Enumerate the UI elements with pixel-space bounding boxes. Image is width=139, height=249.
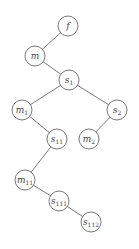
nodes-group: fms1m1s2s11m2m11s111s112 bbox=[12, 16, 127, 232]
tree-diagram: fms1m1s2s11m2m11s111s112 bbox=[0, 0, 139, 249]
node-s1: s1 bbox=[59, 70, 79, 90]
node-s2: s2 bbox=[107, 100, 127, 120]
node-m11: m11 bbox=[15, 170, 35, 190]
node-f: f bbox=[58, 16, 78, 36]
node-m: m bbox=[25, 46, 45, 66]
node-s111: s111 bbox=[49, 191, 69, 211]
node-m1: m1 bbox=[12, 100, 32, 120]
node-s112: s112 bbox=[81, 212, 101, 232]
node-s11: s11 bbox=[47, 129, 67, 149]
node-label: m bbox=[31, 51, 40, 61]
node-m2: m2 bbox=[79, 129, 99, 149]
